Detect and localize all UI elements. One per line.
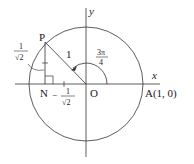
right-angle-mark <box>45 76 53 84</box>
hypotenuse-label: 1 <box>66 48 72 60</box>
y-axis-label: y <box>88 5 94 17</box>
angle-denominator: 4 <box>99 58 103 67</box>
origin-label: O <box>90 87 98 99</box>
pn-denominator: √2 <box>15 53 23 62</box>
on-numerator: 1 <box>66 87 70 96</box>
on-denominator: √2 <box>62 98 70 107</box>
point-n-label: N <box>40 87 48 99</box>
point-p-label: P <box>39 31 45 43</box>
angle-numerator: 3π <box>97 48 105 57</box>
unit-circle-diagram: y x P 1 O A(1, 0) N 3π 4 1 √2 − 1 √2 <box>0 0 194 164</box>
pn-numerator: 1 <box>19 42 23 51</box>
x-axis-label: x <box>151 69 157 81</box>
point-a-label: A(1, 0) <box>145 87 177 100</box>
on-sign: − <box>52 90 57 100</box>
label-leader-line <box>28 64 44 70</box>
